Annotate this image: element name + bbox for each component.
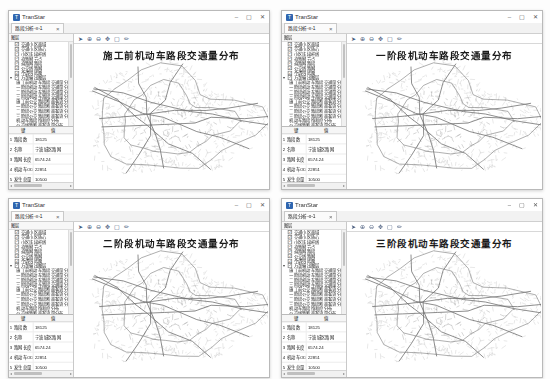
scroll-right-icon[interactable]	[343, 373, 345, 375]
maximize-button[interactable]: ▢	[246, 200, 252, 210]
pan-icon[interactable]: ✥	[378, 223, 383, 231]
maximize-button[interactable]: ▢	[519, 200, 525, 210]
scroll-left-icon[interactable]	[283, 373, 285, 375]
scrollbar-thumb[interactable]	[343, 44, 346, 78]
table-row[interactable]: 4机动车OD22851	[282, 352, 346, 362]
table-row[interactable]: 1路段数18125	[9, 322, 73, 332]
minimize-button[interactable]: –	[235, 12, 238, 22]
app-window[interactable]: T TranStar –▢✕ 路段分析-x-1 × 图层 ✓交通小区面域✓交通小…	[281, 198, 543, 378]
scrollbar-thumb[interactable]	[14, 372, 42, 375]
full-extent-icon[interactable]: ▢	[387, 223, 393, 231]
tab-close-icon[interactable]: ×	[329, 26, 333, 32]
table-horizontal-scrollbar[interactable]	[9, 370, 73, 377]
scrollbar-thumb[interactable]	[287, 184, 315, 187]
zoom-in-icon[interactable]: ⊕	[360, 35, 365, 43]
scrollbar-thumb[interactable]	[70, 232, 73, 266]
zoom-out-icon[interactable]: ⊖	[96, 35, 101, 43]
window-titlebar[interactable]: T TranStar –▢✕	[282, 199, 542, 211]
document-tab[interactable]: 路段分析-x-1 ×	[11, 211, 64, 221]
full-extent-icon[interactable]: ▢	[114, 223, 120, 231]
table-row[interactable]: 2名称宁波城区路网	[282, 332, 346, 342]
app-window[interactable]: T TranStar –▢✕ 路段分析-x-1 × 图层 ✓交通小区面域✓交通小…	[281, 10, 543, 190]
layer-tree[interactable]: ✓交通小区面域✓交通小区质心✓小区连接杆线✓道路网节点✓道路网路段✓公交线路网✓…	[282, 230, 346, 315]
layer-tree[interactable]: ✓交通小区面域✓交通小区质心✓小区连接杆线✓道路网节点✓道路网路段✓公交线路网✓…	[9, 230, 73, 315]
measure-icon[interactable]: ✏	[124, 35, 129, 43]
table-row[interactable]: 5发生总量10500	[282, 175, 346, 182]
map-canvas[interactable]: 二阶段机动车路段交通量分布	[75, 233, 268, 376]
maximize-button[interactable]: ▢	[519, 12, 525, 22]
maximize-button[interactable]: ▢	[246, 12, 252, 22]
measure-icon[interactable]: ✏	[397, 35, 402, 43]
table-horizontal-scrollbar[interactable]	[282, 182, 346, 189]
table-row[interactable]: 1路段数18125	[282, 134, 346, 144]
full-extent-icon[interactable]: ▢	[387, 35, 393, 43]
table-row[interactable]: 2名称宁波城区路网	[282, 144, 346, 154]
scroll-left-icon[interactable]	[10, 373, 12, 375]
pointer-icon[interactable]: ➤	[351, 35, 356, 43]
table-horizontal-scrollbar[interactable]	[9, 182, 73, 189]
tree-vertical-scrollbar[interactable]	[68, 230, 73, 314]
close-button[interactable]: ✕	[260, 12, 265, 22]
zoom-in-icon[interactable]: ⊕	[87, 223, 92, 231]
pan-icon[interactable]: ✥	[105, 35, 110, 43]
close-button[interactable]: ✕	[260, 200, 265, 210]
window-titlebar[interactable]: T TranStar –▢✕	[9, 11, 269, 23]
pointer-icon[interactable]: ➤	[351, 223, 356, 231]
table-row[interactable]: 3路网长度6574.24	[9, 342, 73, 352]
scroll-right-icon[interactable]	[70, 373, 72, 375]
tab-close-icon[interactable]: ×	[56, 26, 60, 32]
table-row[interactable]: 4机动车OD22851	[9, 352, 73, 362]
zoom-in-icon[interactable]: ⊕	[360, 223, 365, 231]
map-canvas[interactable]: 三阶段机动车路段交通量分布	[348, 233, 541, 376]
map-canvas[interactable]: 施工前机动车路段交通量分布	[75, 45, 268, 188]
close-button[interactable]: ✕	[533, 12, 538, 22]
document-tab[interactable]: 路段分析-x-1 ×	[284, 211, 337, 221]
table-row[interactable]: 2名称宁波城区路网	[9, 144, 73, 154]
pointer-icon[interactable]: ➤	[78, 223, 83, 231]
document-tab[interactable]: 路段分析-x-1 ×	[284, 23, 337, 33]
zoom-out-icon[interactable]: ⊖	[369, 35, 374, 43]
table-horizontal-scrollbar[interactable]	[282, 370, 346, 377]
minimize-button[interactable]: –	[508, 12, 511, 22]
measure-icon[interactable]: ✏	[397, 223, 402, 231]
table-row[interactable]: 5发生总量10500	[9, 175, 73, 182]
scroll-left-icon[interactable]	[10, 185, 12, 187]
table-row[interactable]: 5发生总量10500	[282, 363, 346, 370]
zoom-in-icon[interactable]: ⊕	[87, 35, 92, 43]
scrollbar-thumb[interactable]	[343, 232, 346, 266]
document-tab[interactable]: 路段分析-x-1 ×	[11, 23, 64, 33]
measure-icon[interactable]: ✏	[124, 223, 129, 231]
table-row[interactable]: 4机动车OD22851	[9, 164, 73, 174]
zoom-out-icon[interactable]: ⊖	[369, 223, 374, 231]
tree-vertical-scrollbar[interactable]	[341, 230, 346, 314]
table-row[interactable]: 1路段数18125	[282, 322, 346, 332]
table-row[interactable]: 4机动车OD22851	[282, 164, 346, 174]
layer-tree[interactable]: ✓交通小区面域✓交通小区质心✓小区连接杆线✓道路网节点✓道路网路段✓公交线路网✓…	[9, 42, 73, 127]
pointer-icon[interactable]: ➤	[78, 35, 83, 43]
window-titlebar[interactable]: T TranStar –▢✕	[282, 11, 542, 23]
layer-tree[interactable]: ✓交通小区面域✓交通小区质心✓小区连接杆线✓道路网节点✓道路网路段✓公交线路网✓…	[282, 42, 346, 127]
table-row[interactable]: 3路网长度6574.24	[282, 342, 346, 352]
scrollbar-thumb[interactable]	[14, 184, 42, 187]
scrollbar-thumb[interactable]	[287, 372, 315, 375]
close-button[interactable]: ✕	[533, 200, 538, 210]
tab-close-icon[interactable]: ×	[329, 214, 333, 220]
table-row[interactable]: 3路网长度6574.24	[9, 154, 73, 164]
minimize-button[interactable]: –	[508, 200, 511, 210]
pan-icon[interactable]: ✥	[378, 35, 383, 43]
full-extent-icon[interactable]: ▢	[114, 35, 120, 43]
minimize-button[interactable]: –	[235, 200, 238, 210]
window-titlebar[interactable]: T TranStar –▢✕	[9, 199, 269, 211]
zoom-out-icon[interactable]: ⊖	[96, 223, 101, 231]
scrollbar-thumb[interactable]	[70, 44, 73, 78]
pan-icon[interactable]: ✥	[105, 223, 110, 231]
table-row[interactable]: 5发生总量10500	[9, 363, 73, 370]
table-row[interactable]: 2名称宁波城区路网	[9, 332, 73, 342]
table-row[interactable]: 1路段数18125	[9, 134, 73, 144]
tab-close-icon[interactable]: ×	[56, 214, 60, 220]
tree-vertical-scrollbar[interactable]	[341, 42, 346, 126]
tree-vertical-scrollbar[interactable]	[68, 42, 73, 126]
scroll-right-icon[interactable]	[70, 185, 72, 187]
scroll-left-icon[interactable]	[283, 185, 285, 187]
scroll-right-icon[interactable]	[343, 185, 345, 187]
